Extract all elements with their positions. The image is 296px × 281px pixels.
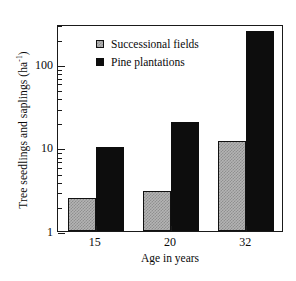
legend-label: Successional fields <box>111 38 199 50</box>
legend-item: Pine plantations <box>96 54 246 70</box>
y-tick-minor <box>58 175 62 176</box>
y-tick-minor <box>58 153 62 154</box>
bar-pine-plantations <box>171 122 199 231</box>
bar-successional-fields <box>68 198 96 231</box>
y-tick-minor <box>58 79 62 80</box>
y-tick-minor <box>58 208 62 209</box>
y-tick-label: 10 <box>13 141 53 156</box>
x-axis-tick-labels: 152032 <box>57 235 283 253</box>
legend: Successional fieldsPine plantations <box>96 36 246 72</box>
y-tick-minor <box>58 183 62 184</box>
y-axis-tick-labels: 110100 <box>8 25 53 232</box>
y-tick-minor <box>58 124 62 125</box>
y-tick-label: 100 <box>13 57 53 72</box>
y-tick-major <box>58 66 65 67</box>
y-tick-minor <box>58 110 62 111</box>
y-tick-major <box>58 149 65 150</box>
y-tick-label: 1 <box>13 225 53 240</box>
x-tick <box>171 226 172 231</box>
y-tick-minor <box>58 74 62 75</box>
x-tick-label: 15 <box>75 235 115 250</box>
bar-chart-figure: Tree seedlings and saplings (ha-1) 11010… <box>0 0 296 281</box>
bar-pine-plantations <box>246 31 274 231</box>
bar-successional-fields <box>218 141 246 231</box>
y-tick-minor <box>58 168 62 169</box>
bar-pine-plantations <box>96 147 124 231</box>
x-tick <box>246 226 247 231</box>
y-tick-minor <box>58 41 62 42</box>
x-tick <box>96 226 97 231</box>
x-tick-label: 20 <box>150 235 190 250</box>
y-tick-minor <box>58 193 62 194</box>
legend-swatch-gray <box>96 40 104 48</box>
y-tick-minor <box>58 162 62 163</box>
y-tick-minor <box>58 99 62 100</box>
y-tick-minor <box>58 84 62 85</box>
y-tick-minor <box>58 70 62 71</box>
legend-item: Successional fields <box>96 36 246 52</box>
y-tick-minor <box>58 26 62 27</box>
y-tick-minor <box>58 158 62 159</box>
y-tick-major <box>58 233 65 234</box>
y-tick-minor <box>58 91 62 92</box>
plot-area: Successional fieldsPine plantations <box>57 25 283 232</box>
bar-successional-fields <box>143 191 171 231</box>
x-axis-title: Age in years <box>57 252 283 264</box>
x-tick-label: 32 <box>225 235 265 250</box>
legend-swatch-black <box>96 58 104 66</box>
legend-label: Pine plantations <box>111 56 185 68</box>
